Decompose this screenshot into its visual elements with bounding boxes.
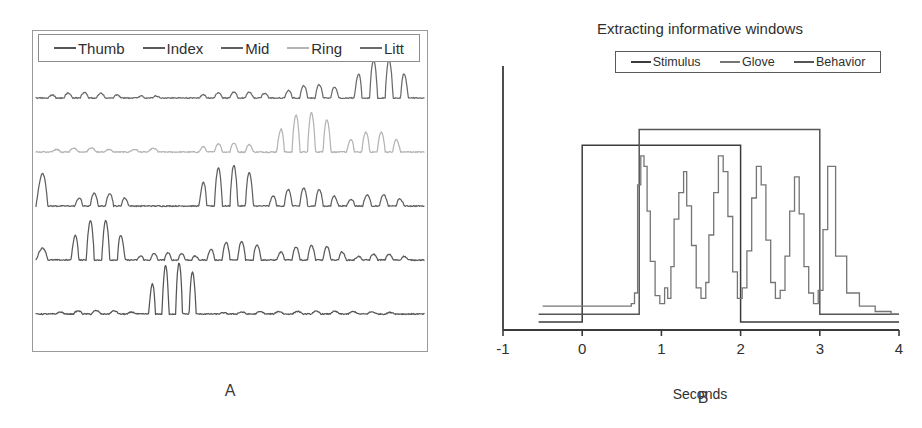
legend-entry-ring: Ring — [287, 41, 342, 56]
legend-label-behavior: Behavior — [816, 56, 865, 69]
legend-label-ring: Ring — [311, 41, 342, 56]
legend-entry-mid: Mid — [221, 41, 269, 56]
svg-text:2: 2 — [736, 340, 744, 357]
svg-text:4: 4 — [895, 340, 903, 357]
panel-a-legend: Thumb Index Mid Ring Litt — [38, 34, 420, 62]
panel-b-caption: B — [683, 389, 723, 407]
legend-swatch-thumb — [54, 47, 76, 49]
legend-swatch-glove — [720, 61, 740, 63]
legend-entry-thumb: Thumb — [54, 41, 125, 56]
legend-label-glove: Glove — [742, 56, 775, 69]
legend-label-index: Index — [167, 41, 204, 56]
legend-label-litt: Litt — [384, 41, 404, 56]
legend-entry-glove: Glove — [720, 56, 775, 69]
legend-swatch-ring — [287, 47, 309, 49]
legend-label-thumb: Thumb — [78, 41, 125, 56]
legend-swatch-mid — [221, 47, 243, 49]
svg-text:0: 0 — [578, 340, 586, 357]
panel-a: Thumb Index Mid Ring Litt — [32, 30, 428, 352]
panel-b-plot: -101234 — [495, 38, 905, 368]
legend-entry-behavior: Behavior — [794, 56, 865, 69]
svg-text:1: 1 — [657, 340, 665, 357]
legend-swatch-litt — [360, 47, 382, 49]
panel-b-legend: Stimulus Glove Behavior — [615, 51, 881, 73]
svg-text:3: 3 — [816, 340, 824, 357]
figure-root: Thumb Index Mid Ring Litt A Extracting i… — [0, 0, 922, 428]
legend-label-mid: Mid — [245, 41, 269, 56]
panel-a-traces — [32, 30, 428, 352]
legend-swatch-behavior — [794, 61, 814, 63]
panel-a-caption: A — [210, 382, 250, 400]
legend-entry-index: Index — [143, 41, 204, 56]
panel-b-title: Extracting informative windows — [495, 20, 905, 37]
legend-swatch-index — [143, 47, 165, 49]
legend-entry-stimulus: Stimulus — [631, 56, 701, 69]
legend-label-stimulus: Stimulus — [653, 56, 701, 69]
svg-text:-1: -1 — [496, 340, 509, 357]
legend-entry-litt: Litt — [360, 41, 404, 56]
panel-b: Extracting informative windows Stimulus … — [495, 20, 905, 360]
legend-swatch-stimulus — [631, 61, 651, 63]
